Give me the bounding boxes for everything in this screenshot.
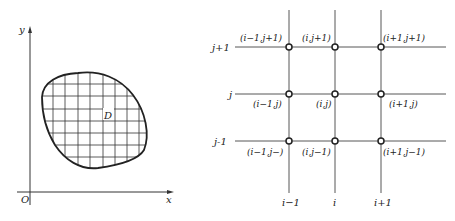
node-label-mid-2: (i+1,j) bbox=[389, 99, 418, 109]
node-label-mid-1: (i,j) bbox=[316, 99, 332, 109]
x-axis-label: x bbox=[166, 194, 172, 205]
row-label-j-plus-1: j+1 bbox=[210, 42, 230, 53]
region-mesh bbox=[35, 60, 160, 180]
col-label-i-plus-1: i+1 bbox=[374, 197, 392, 208]
node-i-minus-1-j bbox=[286, 91, 292, 97]
node-label-bot-0: (i−1,j−) bbox=[247, 147, 284, 157]
region-label: D bbox=[103, 110, 112, 121]
region-d-boundary bbox=[42, 72, 147, 168]
origin-label: O bbox=[21, 194, 29, 205]
node-i-plus-1-j-plus-1 bbox=[378, 44, 384, 50]
y-axis-arrow-icon bbox=[28, 26, 32, 33]
row-label-j-minus-1: j-1 bbox=[212, 136, 227, 147]
node-i-minus-1-j-minus-1 bbox=[286, 138, 292, 144]
diagram-canvas: D y O x j+1 j j-1 i−1 i i+1 (i−1,j+1) bbox=[0, 0, 455, 221]
node-label-top-2: (i+1,j+1) bbox=[383, 33, 426, 43]
node-i-minus-1-j-plus-1 bbox=[286, 44, 292, 50]
node-label-bot-2: (i+1,j−1) bbox=[383, 147, 426, 157]
y-axis-label: y bbox=[18, 24, 25, 35]
right-figure: j+1 j j-1 i−1 i i+1 (i−1,j+1) (i,j+1) (i… bbox=[210, 10, 446, 208]
node-label-top-1: (i,j+1) bbox=[302, 33, 331, 43]
node-i-j-minus-1 bbox=[332, 138, 338, 144]
col-label-i-minus-1: i−1 bbox=[282, 197, 300, 208]
node-i-plus-1-j-minus-1 bbox=[378, 138, 384, 144]
left-figure: D y O x bbox=[17, 24, 174, 205]
node-label-mid-0: (i−1,j) bbox=[253, 99, 282, 109]
col-label-i: i bbox=[333, 197, 336, 208]
node-label-top-0: (i−1,j+1) bbox=[240, 33, 283, 43]
node-label-bot-1: (i,j−1) bbox=[302, 147, 331, 157]
node-i-j bbox=[332, 91, 338, 97]
node-i-plus-1-j bbox=[378, 91, 384, 97]
row-label-j: j bbox=[227, 89, 232, 100]
node-i-j-plus-1 bbox=[332, 44, 338, 50]
